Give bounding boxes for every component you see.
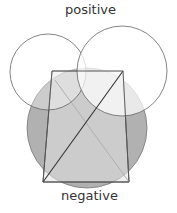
venn-diagram xyxy=(0,0,177,213)
positive-label: positive xyxy=(2,2,177,17)
left-positive-circle xyxy=(10,34,86,110)
negative-label: negative xyxy=(1,188,177,203)
